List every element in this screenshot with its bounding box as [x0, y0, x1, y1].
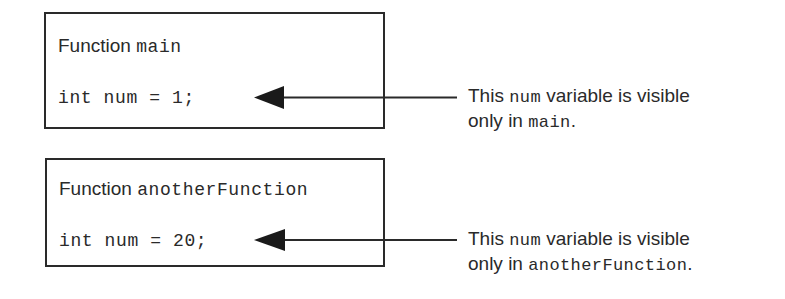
annotation-line-1: This num variable is visible: [468, 84, 690, 109]
variable-declaration-anotherfunction: int num = 20;: [59, 230, 207, 252]
annotation-text: only in: [468, 253, 523, 274]
function-header-main: Function main: [58, 35, 182, 58]
annotation-line-2: only in anotherFunction.: [468, 252, 693, 277]
function-header-anotherfunction: Function anotherFunction: [59, 178, 308, 201]
annotation-code: num: [509, 231, 541, 250]
annotation-code: main: [528, 113, 570, 132]
annotation-text: .: [571, 110, 576, 131]
annotation-text: This: [468, 85, 504, 106]
annotation-code: num: [509, 88, 541, 107]
function-keyword: Function: [59, 178, 132, 199]
function-box-anotherfunction: Function anotherFunction int num = 20;: [45, 158, 385, 267]
function-name: main: [136, 37, 182, 57]
annotation-line-2: only in main.: [468, 109, 690, 134]
annotation-text: variable is visible: [546, 85, 690, 106]
annotation-text: This: [468, 228, 504, 249]
annotation-text: only in: [468, 110, 523, 131]
annotation-text: variable is visible: [546, 228, 690, 249]
annotation-main: This num variable is visible only in mai…: [468, 84, 690, 134]
variable-declaration-main: int num = 1;: [58, 87, 195, 109]
annotation-text: .: [687, 253, 692, 274]
annotation-line-1: This num variable is visible: [468, 227, 693, 252]
annotation-anotherfunction: This num variable is visible only in ano…: [468, 227, 693, 277]
function-keyword: Function: [58, 35, 131, 56]
function-box-main: Function main int num = 1;: [44, 12, 385, 129]
function-name: anotherFunction: [137, 180, 308, 200]
annotation-code: anotherFunction: [528, 256, 687, 275]
